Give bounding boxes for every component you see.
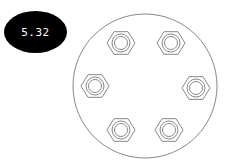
washer-circle — [115, 124, 128, 137]
hex-outline — [155, 119, 183, 142]
washer-circle — [115, 37, 128, 50]
nut-bottom-right — [155, 119, 183, 142]
washer-circle — [89, 80, 102, 93]
hex-outline — [107, 32, 135, 55]
nut-top-right — [157, 32, 185, 55]
nut-middle-right — [182, 77, 210, 100]
hex-outline — [81, 75, 109, 98]
bolt-circle-diagram — [0, 0, 227, 167]
hex-outline — [157, 32, 185, 55]
hex-outline — [182, 77, 210, 100]
nut-bottom-left — [107, 119, 135, 142]
nut-top-left — [107, 32, 135, 55]
flange-plate — [73, 14, 217, 158]
washer-circle — [190, 82, 203, 95]
washer-circle — [165, 37, 178, 50]
hex-outline — [107, 119, 135, 142]
washer-circle — [163, 124, 176, 137]
nut-middle-left — [81, 75, 109, 98]
